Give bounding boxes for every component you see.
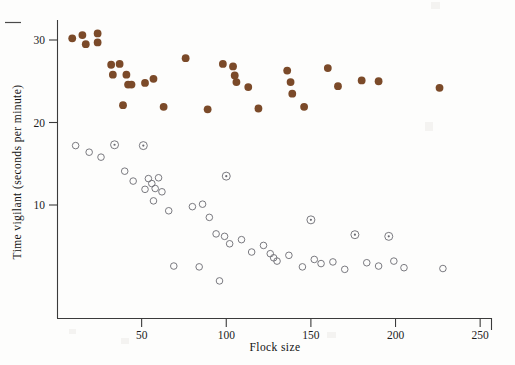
- data-point-open-34: [341, 266, 348, 273]
- data-point-filled-4: [94, 39, 102, 47]
- data-point-open-41: [440, 265, 447, 272]
- y-axis-ticks: 102030: [34, 34, 58, 211]
- data-point-open-23: [248, 249, 255, 256]
- x-tick-label-200: 200: [387, 329, 405, 341]
- data-point-open-core-3: [113, 144, 115, 146]
- data-point-open-core-12: [142, 145, 144, 147]
- y-tick-label-10: 10: [34, 199, 46, 211]
- data-point-filled-7: [109, 71, 117, 79]
- data-point-filled-10: [128, 81, 136, 89]
- data-point-open-18: [213, 231, 220, 238]
- data-point-open-1: [86, 149, 93, 156]
- data-point-open-4: [121, 168, 128, 175]
- data-point-open-21: [238, 236, 245, 243]
- data-point-open-33: [330, 259, 337, 266]
- data-point-open-14: [165, 207, 172, 214]
- data-point-open-10: [152, 185, 159, 192]
- x-tick-label-100: 100: [218, 329, 236, 341]
- x-axis-ticks: 50100150200250: [136, 318, 489, 341]
- data-point-filled-17: [219, 60, 227, 68]
- data-point-open-core-35: [354, 234, 356, 236]
- data-point-filled-8: [122, 71, 130, 79]
- plot-canvas: 50100150200250 102030 Flock size Time vi…: [0, 0, 515, 365]
- data-point-filled-13: [150, 75, 158, 83]
- x-tick-label-50: 50: [136, 329, 148, 341]
- y-axis-title: Time vigilant (seconds per minute): [11, 85, 24, 260]
- data-point-filled-18: [229, 63, 237, 71]
- data-point-open-44: [196, 264, 203, 271]
- data-point-filled-21: [244, 83, 252, 91]
- data-point-open-40: [401, 264, 408, 271]
- data-point-filled-20: [233, 78, 241, 86]
- data-point-filled-1: [78, 31, 86, 39]
- data-point-filled-26: [300, 103, 308, 111]
- x-axis-title: Flock size: [250, 341, 301, 353]
- data-point-filled-15: [182, 54, 190, 62]
- data-point-open-7: [130, 178, 137, 185]
- data-point-filled-24: [287, 78, 295, 86]
- data-point-open-16: [199, 201, 206, 208]
- data-point-filled-22: [255, 105, 263, 113]
- data-point-filled-29: [358, 77, 366, 85]
- data-point-open-28: [286, 252, 293, 259]
- y-tick-label-30: 30: [34, 34, 46, 46]
- data-point-open-20: [226, 240, 233, 247]
- data-point-open-core-38: [388, 235, 390, 237]
- data-point-open-15: [189, 203, 196, 210]
- data-point-filled-28: [334, 82, 342, 90]
- data-point-open-37: [375, 263, 382, 270]
- data-point-open-36: [363, 259, 370, 266]
- data-point-filled-12: [141, 79, 149, 87]
- data-point-filled-2: [82, 40, 90, 48]
- data-point-filled-0: [68, 34, 76, 42]
- filled-circle-series: [68, 30, 443, 114]
- data-point-open-core-30: [310, 219, 312, 221]
- x-tick-label-250: 250: [472, 329, 490, 341]
- data-point-open-11: [155, 174, 162, 181]
- data-point-filled-16: [204, 105, 212, 113]
- data-point-open-5: [142, 186, 149, 193]
- data-point-filled-6: [116, 60, 124, 68]
- data-point-open-core-22: [225, 175, 227, 177]
- data-point-filled-30: [375, 77, 383, 85]
- paper-texture: [69, 2, 440, 344]
- data-point-filled-11: [119, 101, 127, 109]
- data-point-open-43: [170, 263, 177, 270]
- data-point-open-24: [260, 242, 267, 249]
- y-tick-label-20: 20: [34, 117, 46, 129]
- data-point-open-42: [216, 278, 223, 285]
- open-circle-series: [72, 141, 446, 284]
- data-point-open-31: [311, 256, 318, 263]
- data-point-open-6: [150, 198, 157, 205]
- data-point-open-32: [318, 260, 325, 267]
- data-point-open-13: [159, 189, 166, 196]
- data-point-filled-31: [436, 84, 444, 92]
- data-point-open-19: [221, 233, 228, 240]
- data-point-open-25: [267, 250, 274, 257]
- data-point-open-39: [391, 258, 398, 265]
- data-point-open-29: [299, 264, 306, 271]
- data-point-filled-19: [231, 72, 239, 80]
- data-point-filled-23: [283, 67, 291, 75]
- data-point-filled-27: [324, 64, 332, 72]
- data-point-open-0: [72, 142, 79, 149]
- data-point-open-17: [206, 214, 213, 221]
- x-tick-label-150: 150: [302, 329, 320, 341]
- scatter-plot-figure: 50100150200250 102030 Flock size Time vi…: [0, 0, 515, 365]
- data-point-filled-3: [94, 30, 102, 38]
- data-point-filled-25: [288, 90, 296, 98]
- data-point-filled-5: [107, 61, 115, 69]
- data-point-filled-14: [160, 103, 168, 111]
- data-point-open-2: [98, 154, 105, 161]
